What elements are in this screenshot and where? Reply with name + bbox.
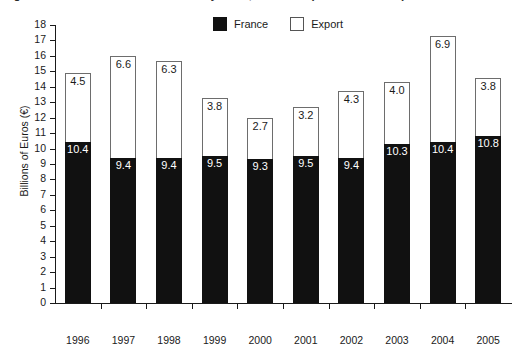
x-axis-tick-mark — [146, 303, 147, 309]
y-axis-title: Billions of Euros (€) — [18, 31, 30, 271]
bar-group[interactable]: 3.29.5 — [293, 107, 319, 303]
bar-segment-france[interactable]: 10.4 — [430, 142, 456, 303]
y-axis-tick-mark — [50, 56, 55, 57]
bar-value-france: 9.4 — [110, 160, 136, 171]
y-axis-tick-mark — [50, 164, 55, 165]
x-axis-tick-label: 1997 — [101, 334, 147, 346]
x-axis-tick-mark — [283, 303, 284, 309]
x-axis-tick-mark — [101, 303, 102, 309]
y-axis-tick-label: 14 — [34, 80, 46, 92]
bar-value-france: 10.8 — [475, 138, 501, 149]
bar-value-france: 10.3 — [384, 146, 410, 157]
chart-plot-area: 18171615141312111098765432104.510.419966… — [55, 25, 511, 303]
bar-group[interactable]: 4.510.4 — [65, 73, 91, 303]
bar-value-france: 10.4 — [65, 144, 91, 155]
figure-caption-text: French Defence Industry Sales, 1996-2005… — [88, 0, 405, 1]
y-axis-tick-label: 11 — [35, 126, 46, 138]
y-axis-tick-mark — [50, 87, 55, 88]
y-axis-tick-mark — [50, 288, 55, 289]
x-axis-tick-mark — [420, 303, 421, 309]
bar-group[interactable]: 4.010.3 — [384, 82, 410, 303]
bar-value-export: 2.7 — [248, 121, 272, 132]
y-axis-tick-mark — [50, 133, 55, 134]
y-axis-tick-mark — [50, 179, 55, 180]
y-axis-tick-label: 18 — [34, 18, 46, 30]
y-axis-tick-label: 3 — [40, 250, 46, 262]
x-axis-tick-label: 2000 — [237, 334, 283, 346]
x-axis-tick-label: 1999 — [192, 334, 238, 346]
y-axis-tick-mark — [50, 195, 55, 196]
bar-group[interactable]: 3.810.8 — [475, 78, 501, 303]
bar-value-export: 6.9 — [431, 39, 455, 50]
y-axis-tick-mark — [50, 303, 55, 304]
bar-segment-france[interactable]: 10.8 — [475, 136, 501, 303]
bar-group[interactable]: 6.910.4 — [430, 36, 456, 303]
y-axis-tick-mark — [50, 257, 55, 258]
x-axis-tick-label: 2005 — [465, 334, 511, 346]
bar-group[interactable]: 4.39.4 — [338, 91, 364, 303]
bar-segment-france[interactable]: 9.4 — [156, 158, 182, 303]
x-axis-tick-mark — [329, 303, 330, 309]
bar-segment-france[interactable]: 10.3 — [384, 144, 410, 303]
x-axis-tick-mark — [192, 303, 193, 309]
y-axis-tick-mark — [50, 272, 55, 273]
y-axis-tick-label: 7 — [40, 188, 46, 200]
bar-value-export: 3.2 — [294, 110, 318, 121]
y-axis-tick-mark — [50, 102, 55, 103]
y-axis-tick-mark — [50, 71, 55, 72]
y-axis-tick-label: 13 — [34, 95, 46, 107]
bar-segment-france[interactable]: 10.4 — [65, 142, 91, 303]
bar-segment-france[interactable]: 9.4 — [338, 158, 364, 303]
y-axis-tick-label: 10 — [34, 142, 46, 154]
bar-segment-france[interactable]: 9.4 — [110, 158, 136, 303]
y-axis-tick-label: 9 — [40, 157, 46, 169]
y-axis-tick-label: 12 — [34, 111, 46, 123]
x-axis-tick-mark — [465, 303, 466, 309]
y-axis-tick-label: 8 — [40, 172, 46, 184]
bar-value-france: 9.3 — [247, 161, 273, 172]
x-axis-tick-label: 2001 — [283, 334, 329, 346]
y-axis-tick-mark — [50, 25, 55, 26]
y-axis-tick-label: 6 — [40, 203, 46, 215]
bar-value-export: 4.0 — [385, 85, 409, 96]
y-axis-tick-label: 5 — [40, 219, 46, 231]
bar-value-export: 6.3 — [157, 64, 181, 75]
figure-caption-number: Figure 52 — [0, 0, 88, 1]
figure-caption: Figure 52French Defence Industry Sales, … — [0, 0, 528, 3]
bar-value-export: 4.5 — [66, 76, 90, 87]
bar-group[interactable]: 3.89.5 — [202, 98, 228, 303]
bar-value-france: 9.5 — [293, 158, 319, 169]
bar-value-export: 3.8 — [476, 81, 500, 92]
bar-segment-france[interactable]: 9.5 — [202, 156, 228, 303]
bar-group[interactable]: 2.79.3 — [247, 118, 273, 303]
x-axis-tick-mark — [237, 303, 238, 309]
y-axis-tick-mark — [50, 149, 55, 150]
y-axis-tick-mark — [50, 40, 55, 41]
y-axis-tick-label: 1 — [40, 281, 46, 293]
bar-value-france: 10.4 — [430, 144, 456, 155]
bar-value-france: 9.5 — [202, 158, 228, 169]
y-axis-tick-label: 4 — [40, 234, 46, 246]
y-axis-tick-mark — [50, 118, 55, 119]
y-axis-tick-mark — [50, 226, 55, 227]
y-axis-tick-mark — [50, 210, 55, 211]
bar-segment-france[interactable]: 9.5 — [293, 156, 319, 303]
bar-value-france: 9.4 — [338, 160, 364, 171]
bar-value-export: 4.3 — [339, 94, 363, 105]
y-axis-tick-label: 15 — [34, 64, 46, 76]
x-axis-tick-label: 1996 — [55, 334, 101, 346]
x-axis-tick-label: 1998 — [146, 334, 192, 346]
bar-value-export: 3.8 — [203, 101, 227, 112]
bar-value-france: 9.4 — [156, 160, 182, 171]
bar-value-export: 6.6 — [111, 59, 135, 70]
y-axis-tick-label: 0 — [40, 296, 46, 308]
y-axis-tick-label: 17 — [34, 33, 46, 45]
y-axis-tick-label: 2 — [40, 265, 46, 277]
bar-group[interactable]: 6.69.4 — [110, 56, 136, 303]
bar-segment-france[interactable]: 9.3 — [247, 159, 273, 303]
x-axis-tick-label: 2003 — [374, 334, 420, 346]
y-axis-tick-mark — [50, 241, 55, 242]
y-axis-tick-label: 16 — [34, 49, 46, 61]
x-axis-tick-label: 2002 — [329, 334, 375, 346]
bar-group[interactable]: 6.39.4 — [156, 61, 182, 303]
